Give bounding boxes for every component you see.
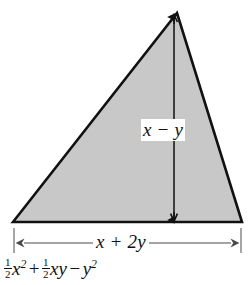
fraction-one-half-first: 12 bbox=[4, 257, 12, 280]
figure-container: x − y x + 2y 12x2+12xy−y2 bbox=[0, 0, 252, 285]
base-arrow-head-right bbox=[231, 239, 240, 248]
formula-term-3-variable: y bbox=[83, 258, 91, 279]
triangle-shape bbox=[13, 13, 242, 222]
base-dimension-label: x + 2y bbox=[93, 232, 149, 251]
area-formula: 12x2+12xy−y2 bbox=[4, 257, 97, 280]
formula-term-2-variable: xy bbox=[50, 258, 67, 279]
formula-term-3-exponent: 2 bbox=[91, 258, 97, 271]
fraction-denominator: 2 bbox=[42, 269, 50, 280]
height-dimension-label: x − y bbox=[141, 119, 185, 141]
base-arrow-head-left bbox=[16, 239, 25, 248]
fraction-denominator: 2 bbox=[4, 269, 12, 280]
formula-operator-plus: + bbox=[26, 258, 42, 279]
fraction-one-half-second: 12 bbox=[42, 257, 50, 280]
formula-operator-minus: − bbox=[67, 258, 83, 279]
